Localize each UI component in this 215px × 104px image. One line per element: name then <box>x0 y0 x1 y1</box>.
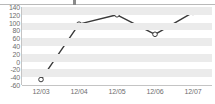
legend-marker-stub-icon <box>73 0 76 5</box>
x-axis-spine <box>22 85 212 86</box>
grid-band <box>22 69 212 77</box>
y-axis-tick-label: 80 <box>13 27 20 34</box>
y-axis-tick-label: 140 <box>9 4 20 11</box>
x-axis-tick-label: 12/04 <box>70 88 87 96</box>
y-axis-tick-label: -40 <box>10 74 20 81</box>
grid-band <box>22 23 212 31</box>
grid-band <box>22 38 212 46</box>
y-axis-tick-label: 120 <box>9 11 20 18</box>
grid-band <box>22 7 212 15</box>
y-axis-spine <box>21 7 22 85</box>
y-axis-tick-label: 60 <box>13 35 20 42</box>
y-axis-tick-label: 40 <box>13 43 20 50</box>
y-axis-tick-label: -60 <box>10 82 20 89</box>
y-axis: 140120100806040200-20-40-60 <box>0 7 21 85</box>
y-axis-tick-label: 100 <box>9 19 20 26</box>
plot-area <box>22 7 212 85</box>
x-axis-tick-label: 12/03 <box>32 88 49 96</box>
x-axis: 12/0312/0412/0512/0612/07 <box>22 88 212 100</box>
grid-band <box>22 54 212 62</box>
data-point-marker[interactable] <box>153 32 158 37</box>
y-axis-tick-label: 20 <box>13 50 20 57</box>
y-axis-tick-label: -20 <box>10 66 20 73</box>
top-divider <box>0 4 215 5</box>
x-axis-tick-label: 12/07 <box>184 88 201 96</box>
x-axis-tick-label: 12/06 <box>146 88 163 96</box>
y-axis-tick-label: 0 <box>16 58 20 65</box>
data-point-marker[interactable] <box>39 77 44 82</box>
x-axis-tick-label: 12/05 <box>108 88 125 96</box>
line-chart-widget: 140120100806040200-20-40-60 12/0312/0412… <box>0 0 215 104</box>
